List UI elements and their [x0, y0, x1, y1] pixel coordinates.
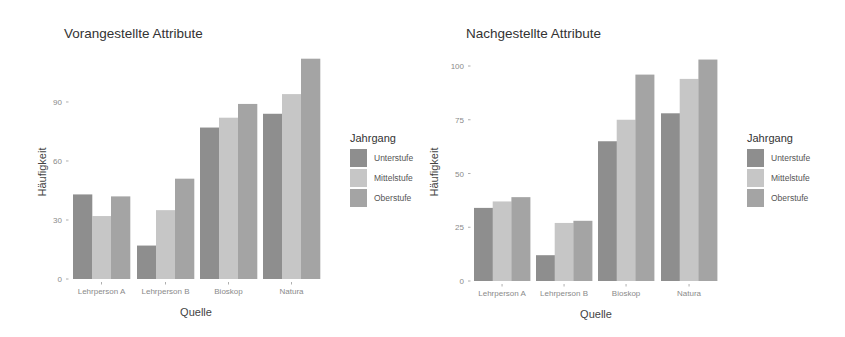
- bar-unterstufe: [137, 246, 156, 279]
- legend-swatch: [350, 169, 367, 187]
- bar-oberstufe: [635, 75, 654, 281]
- x-tick-label: Natura: [677, 289, 702, 298]
- bar-mittelstufe: [92, 216, 111, 279]
- y-axis: 0255075100: [451, 62, 471, 286]
- bar-group-lehrperson-a: [73, 194, 130, 279]
- bar-mittelstufe: [282, 94, 301, 279]
- x-tick-label: Lehrperson A: [478, 289, 526, 298]
- bar-group-lehrperson-b: [536, 221, 592, 281]
- bar-mittelstufe: [680, 79, 699, 281]
- y-tick-label: 50: [455, 170, 464, 179]
- y-tick-label: 30: [53, 216, 62, 225]
- bar-unterstufe: [263, 114, 282, 279]
- bar-group-bioskop: [598, 75, 654, 281]
- y-tick-label: 75: [455, 116, 464, 125]
- x-axis: Lehrperson ALehrperson BBioskopNatura: [78, 282, 304, 296]
- bar-unterstufe: [200, 128, 219, 279]
- legend-label: Oberstufe: [374, 193, 412, 203]
- x-tick-label: Lehrperson B: [141, 287, 189, 296]
- bar-group-lehrperson-a: [474, 197, 530, 281]
- legend: JahrgangUnterstufeMittelstufeOberstufe: [350, 132, 413, 207]
- legend-swatch: [747, 189, 764, 207]
- bar-oberstufe: [573, 221, 592, 281]
- bar-oberstufe: [175, 179, 194, 279]
- bar-chart-nachgestellte-attribute: Nachgestellte Attribute0255075100Häufigk…: [422, 0, 845, 337]
- bar-unterstufe: [474, 208, 493, 281]
- bar-mittelstufe: [219, 118, 238, 279]
- legend-item-mittelstufe: Mittelstufe: [747, 169, 810, 187]
- y-axis: 0306090: [53, 98, 68, 284]
- bar-unterstufe: [598, 141, 617, 281]
- legend-label: Unterstufe: [374, 153, 413, 163]
- chart-title: Vorangestellte Attribute: [64, 26, 203, 41]
- x-axis: Lehrperson ALehrperson BBioskopNatura: [478, 284, 701, 298]
- bars: [73, 59, 320, 279]
- bar-chart-vorangestellte-attribute: Vorangestellte Attribute0306090Häufigkei…: [0, 0, 422, 337]
- legend-label: Oberstufe: [771, 193, 809, 203]
- y-tick-label: 60: [53, 157, 62, 166]
- legend-item-mittelstufe: Mittelstufe: [350, 169, 413, 187]
- bar-oberstufe: [698, 60, 717, 281]
- bar-mittelstufe: [555, 223, 574, 281]
- chart-panel-nachgestellte: Nachgestellte Attribute0255075100Häufigk…: [422, 0, 845, 337]
- y-axis-title: Häufigkeit: [428, 148, 440, 197]
- x-tick-label: Lehrperson B: [540, 289, 588, 298]
- bar-mittelstufe: [493, 201, 512, 281]
- x-tick-label: Natura: [279, 287, 304, 296]
- bar-oberstufe: [511, 197, 530, 281]
- bar-unterstufe: [536, 255, 555, 281]
- bar-group-bioskop: [200, 104, 257, 279]
- bar-oberstufe: [238, 104, 257, 279]
- x-tick-label: Bioskop: [612, 289, 641, 298]
- bar-group-lehrperson-b: [137, 179, 194, 279]
- legend-item-oberstufe: Oberstufe: [350, 189, 412, 207]
- bar-unterstufe: [73, 194, 92, 279]
- bar-mittelstufe: [617, 120, 636, 281]
- x-axis-title: Quelle: [180, 306, 212, 318]
- x-tick-label: Lehrperson A: [78, 287, 126, 296]
- legend-title: Jahrgang: [350, 132, 396, 144]
- chart-title: Nachgestellte Attribute: [466, 26, 601, 41]
- x-axis-title: Quelle: [580, 308, 612, 320]
- y-tick-label: 90: [53, 98, 62, 107]
- y-tick-label: 100: [451, 62, 465, 71]
- legend-swatch: [350, 149, 367, 167]
- bar-unterstufe: [661, 113, 680, 281]
- bar-mittelstufe: [156, 210, 175, 279]
- chart-panel-vorangestellte: Vorangestellte Attribute0306090Häufigkei…: [0, 0, 422, 337]
- y-tick-label: 25: [455, 223, 464, 232]
- bars: [474, 60, 717, 281]
- bar-oberstufe: [111, 196, 130, 279]
- legend-label: Mittelstufe: [374, 173, 413, 183]
- bar-oberstufe: [301, 59, 320, 279]
- legend-label: Unterstufe: [771, 153, 810, 163]
- legend-swatch: [350, 189, 367, 207]
- legend-item-oberstufe: Oberstufe: [747, 189, 809, 207]
- legend-swatch: [747, 169, 764, 187]
- legend-label: Mittelstufe: [771, 173, 810, 183]
- legend-title: Jahrgang: [747, 132, 793, 144]
- legend-item-unterstufe: Unterstufe: [350, 149, 413, 167]
- x-tick-label: Bioskop: [214, 287, 243, 296]
- y-axis-title: Häufigkeit: [36, 148, 48, 197]
- y-tick-label: 0: [58, 275, 63, 284]
- y-tick-label: 0: [460, 277, 465, 286]
- legend-item-unterstufe: Unterstufe: [747, 149, 810, 167]
- legend: JahrgangUnterstufeMittelstufeOberstufe: [747, 132, 810, 207]
- bar-group-natura: [263, 59, 320, 279]
- bar-group-natura: [661, 60, 717, 281]
- legend-swatch: [747, 149, 764, 167]
